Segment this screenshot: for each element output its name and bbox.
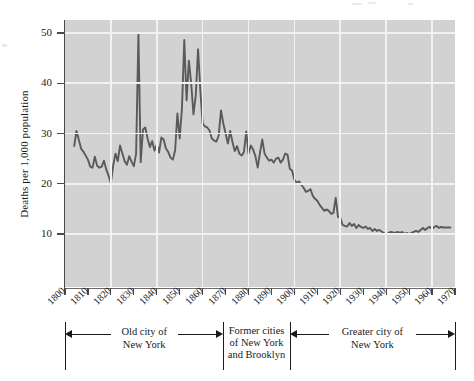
era-arrow-row: Greater city of: [290, 330, 455, 339]
gridline-vertical: [385, 20, 387, 287]
era-arrow-row: Old city of: [65, 330, 223, 339]
era-arrowhead-left-icon: [290, 330, 297, 338]
y-tick: [57, 83, 64, 84]
era-arrow-bar-right: [178, 334, 217, 335]
gridline-vertical: [202, 20, 204, 287]
era-arrowhead-left-icon: [65, 330, 72, 338]
chart-figure: Deaths per 1,000 population 1020304050 1…: [0, 0, 474, 381]
scan-artifact: [2, 44, 7, 47]
y-tick: [57, 32, 64, 33]
gridline-vertical: [431, 20, 433, 287]
y-tick: [57, 183, 64, 184]
era-arrow-bar-left: [297, 334, 329, 335]
era-boundary-rule: [455, 322, 456, 370]
gridline-horizontal: [65, 82, 455, 84]
era-label-line3: and Brooklyn: [212, 349, 302, 361]
era-arrow-bar-right: [416, 334, 448, 335]
gridline-horizontal: [65, 233, 455, 235]
gridline-horizontal: [65, 32, 455, 34]
data-line: [65, 20, 455, 287]
gridline-vertical: [248, 20, 250, 287]
series-crude-death-rate: [74, 34, 450, 235]
era-label-line2: New York: [302, 339, 442, 351]
era-label-line1: Greater city of: [338, 326, 407, 337]
era-label-line2: of New York: [212, 337, 302, 349]
y-tick-label: 50: [26, 26, 52, 38]
gridline-vertical: [294, 20, 296, 287]
era-label-line1: Former cities: [212, 325, 302, 337]
gridline-vertical: [156, 20, 158, 287]
y-tick-label: 30: [26, 127, 52, 139]
scan-artifact: [408, 3, 413, 5]
scan-artifact: [352, 3, 362, 5]
y-tick-label: 10: [26, 227, 52, 239]
era-label-line1: Old city of: [117, 326, 171, 337]
plot-area: [65, 20, 455, 287]
y-tick: [57, 233, 64, 234]
gridline-vertical: [110, 20, 112, 287]
y-axis-line: [64, 20, 65, 289]
y-tick: [57, 133, 64, 134]
plot-inner: [65, 20, 455, 287]
era-arrowhead-right-icon: [448, 330, 455, 338]
era-arrow-bar-left: [72, 334, 111, 335]
y-tick-label: 40: [26, 76, 52, 88]
y-tick-label: 20: [26, 177, 52, 189]
era-label-line2: New York: [74, 339, 214, 351]
gridline-horizontal: [65, 183, 455, 185]
gridline-horizontal: [65, 133, 455, 135]
scan-artifact: [368, 2, 376, 4]
gridline-vertical: [339, 20, 341, 287]
